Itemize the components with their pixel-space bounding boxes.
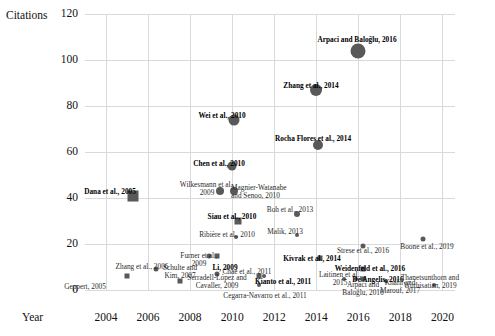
y-tick-label: 80 <box>40 100 78 112</box>
data-point-label: Weidenfeld et al., 2016 <box>335 265 405 273</box>
scatter-chart: Citations Year 020406080100120 200420062… <box>0 0 495 336</box>
data-point[interactable] <box>125 274 130 279</box>
data-point-label: Cegarra-Navarro et al., 2011 <box>223 292 306 300</box>
data-point-label: Kivrak et al., 2014 <box>283 255 340 263</box>
gridline-vertical <box>106 14 107 290</box>
gridline-vertical <box>190 14 191 290</box>
data-point-label: Thanetsunthorn and Wuthisatian, 2019 <box>401 274 459 290</box>
data-point-label: Malik, 2013 <box>267 228 303 236</box>
y-tick-label: 20 <box>40 238 78 250</box>
gridline-vertical <box>232 14 233 290</box>
data-point-label: Boone et al., 2019 <box>400 243 453 251</box>
data-point-label: Zhang et al., 2006 <box>116 263 169 271</box>
data-point-label: Kianto et al., 2011 <box>255 278 311 286</box>
data-point[interactable] <box>351 43 366 58</box>
data-point-label: Chae et al., 2011 <box>223 268 272 276</box>
y-tick-label: 120 <box>40 8 78 20</box>
data-point-label: Wei et al., 2010 <box>198 112 245 120</box>
y-tick-label: 100 <box>40 54 78 66</box>
data-point-label: Rocha Flores et al., 2014 <box>275 135 351 143</box>
data-point-label: Serradell-López and Cavaller, 2009 <box>187 274 246 290</box>
y-tick-label: 40 <box>40 192 78 204</box>
data-point-label: Strese et al., 2016 <box>337 247 389 255</box>
x-axis-title: Year <box>22 312 43 324</box>
data-point-label: Ribière et al., 2010 <box>199 231 255 239</box>
data-point-label: Boh et al., 2013 <box>267 206 313 214</box>
y-tick-label: 60 <box>40 146 78 158</box>
x-tick-label: 2020 <box>417 312 467 324</box>
gridline-vertical <box>274 14 275 290</box>
data-point-label: Arpaci and Baloğlu, 2016 <box>317 36 396 44</box>
data-point-label: Chen et al., 2010 <box>193 160 245 168</box>
data-point-label: Siau et al., 2010 <box>208 213 257 221</box>
data-point-label: Magnier-Watanabe and Senoo, 2010 <box>231 184 287 200</box>
data-point-label: Geppert, 2005 <box>64 283 106 291</box>
data-point-label: Zhang et al., 2014 <box>283 82 338 90</box>
data-point-label: Wilkesmann et al., 2009 <box>180 181 234 197</box>
gridline-vertical <box>148 14 149 290</box>
gridline-vertical <box>316 14 317 290</box>
data-point-label: Dana et al., 2005 <box>84 188 136 196</box>
